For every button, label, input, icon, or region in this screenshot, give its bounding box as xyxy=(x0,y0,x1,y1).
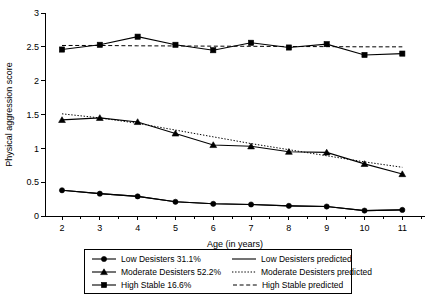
y-axis-title: Physical aggression score xyxy=(4,62,14,167)
legend-entry: Moderate Desisters 52.2% xyxy=(85,266,231,278)
legend-label: High Stable predicted xyxy=(262,280,343,290)
series-moderate-desisters-predicted xyxy=(62,114,402,167)
y-tick-label: 1 xyxy=(34,144,39,154)
legend-label: Moderate Desisters predicted xyxy=(261,267,372,277)
legend-label: Low Desisters predicted xyxy=(261,254,352,264)
data-series xyxy=(59,34,406,213)
y-tick-label: 2.5 xyxy=(26,42,39,52)
x-tick-label: 3 xyxy=(97,223,102,233)
series-moderate-desisters-52-2 xyxy=(59,115,406,177)
x-tick-label: 5 xyxy=(173,223,178,233)
legend-swatch-square-solid-icon xyxy=(91,279,117,291)
legend-swatch-none-dotted-icon xyxy=(231,266,257,278)
legend-swatch-none-solid-icon xyxy=(231,253,257,265)
y-tick-label: 2 xyxy=(34,76,39,86)
y-tick-label: 1.5 xyxy=(26,110,39,120)
x-tick-label: 4 xyxy=(135,223,140,233)
legend-swatch-triangle-solid-icon xyxy=(91,266,117,278)
legend-entry: Low Desisters predicted xyxy=(231,253,351,265)
legend-entry: Low Desisters 31.1% xyxy=(85,253,231,265)
axis-labels: 00.511.522.53234567891011Age (in years)P… xyxy=(4,8,407,249)
x-tick-label: 2 xyxy=(60,223,65,233)
legend-entry: High Stable predicted xyxy=(232,279,351,291)
legend-swatch-circle-solid-icon xyxy=(91,253,117,265)
x-tick-label: 8 xyxy=(286,223,291,233)
legend-rows: Low Desisters 31.1%Low Desisters predict… xyxy=(85,250,351,293)
legend-entry: High Stable 16.6% xyxy=(85,279,232,291)
legend-entry: Moderate Desisters predicted xyxy=(231,266,351,278)
chart-legend: Low Desisters 31.1%Low Desisters predict… xyxy=(84,249,352,294)
legend-label: High Stable 16.6% xyxy=(121,280,191,290)
legend-swatch-none-dashed-icon xyxy=(232,279,258,291)
x-tick-label: 7 xyxy=(249,223,254,233)
x-axis-title: Age (in years) xyxy=(207,239,263,249)
legend-row: High Stable 16.6%High Stable predicted xyxy=(85,278,351,291)
x-tick-label: 6 xyxy=(211,223,216,233)
legend-row: Moderate Desisters 52.2%Moderate Desiste… xyxy=(85,265,351,278)
x-tick-label: 9 xyxy=(324,223,329,233)
y-tick-label: 0.5 xyxy=(26,177,39,187)
y-tick-label: 3 xyxy=(34,8,39,18)
x-tick-label: 11 xyxy=(398,223,407,233)
legend-label: Moderate Desisters 52.2% xyxy=(121,267,221,277)
legend-label: Low Desisters 31.1% xyxy=(121,254,201,264)
series-low-desisters-predicted xyxy=(62,190,402,210)
chart-figure: 00.511.522.53234567891011Age (in years)P… xyxy=(0,0,438,303)
x-tick-label: 10 xyxy=(359,223,369,233)
y-tick-label: 0 xyxy=(34,211,39,221)
legend-row: Low Desisters 31.1%Low Desisters predict… xyxy=(85,252,351,265)
